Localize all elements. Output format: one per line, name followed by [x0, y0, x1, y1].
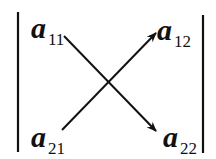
determinant-diagram: a11 a12 a21 a22: [0, 0, 216, 159]
term-a21-base: a: [31, 120, 46, 153]
term-a22-subscript: 22: [180, 139, 197, 158]
term-a22-base: a: [163, 120, 178, 153]
term-a11-subscript: 11: [48, 30, 64, 49]
term-a11-base: a: [31, 11, 46, 44]
term-a12-subscript: 12: [174, 32, 191, 51]
term-a22: a22: [163, 122, 197, 157]
term-a21: a21: [31, 122, 65, 157]
arrow-a11-to-a22: [64, 36, 156, 131]
term-a21-subscript: 21: [48, 139, 65, 158]
term-a11: a11: [31, 13, 64, 48]
term-a12-base: a: [157, 13, 172, 46]
term-a12: a12: [157, 15, 191, 50]
